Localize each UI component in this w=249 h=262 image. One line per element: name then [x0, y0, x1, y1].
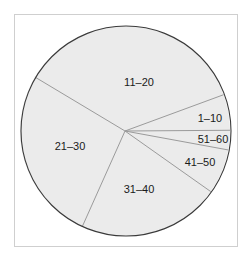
- slice-label-1-10: 1–10: [198, 112, 222, 124]
- pie-chart: 11–20 1–10 51–60 41–50 31–40 21–30: [0, 0, 249, 262]
- slice-label-11-20: 11–20: [124, 76, 154, 88]
- slice-label-31-40: 31–40: [124, 183, 155, 195]
- slice-label-41-50: 41–50: [185, 156, 216, 168]
- slice-label-21-30: 21–30: [55, 140, 86, 152]
- slice-label-51-60: 51–60: [198, 133, 229, 145]
